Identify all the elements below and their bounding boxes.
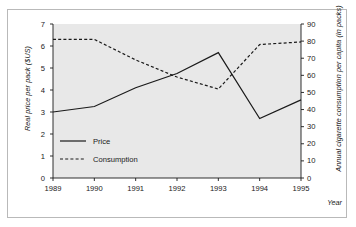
right-axis-tick-label: 80 — [307, 37, 329, 46]
right-axis-tick-label: 30 — [307, 122, 329, 131]
legend-label-consumption: Consumption — [93, 155, 138, 164]
left-axis-tick-label: 2 — [25, 130, 45, 139]
plot-area-background — [53, 24, 301, 178]
left-axis-tick-label: 7 — [25, 20, 45, 29]
left-axis-tick-label: 5 — [25, 64, 45, 73]
x-axis-tick-label: 1989 — [33, 184, 73, 193]
x-axis-tick-label: 1994 — [240, 184, 280, 193]
legend-label-price: Price — [93, 137, 110, 146]
x-axis-tick-label: 1993 — [198, 184, 238, 193]
left-axis-tick-label: 6 — [25, 42, 45, 51]
right-axis-tick-label: 50 — [307, 88, 329, 97]
right-axis-tick-label: 60 — [307, 71, 329, 80]
right-axis-tick-label: 0 — [307, 174, 329, 183]
right-axis-tick-label: 20 — [307, 139, 329, 148]
right-axis-tick-label: 90 — [307, 20, 329, 29]
x-axis-tick-label: 1995 — [281, 184, 321, 193]
x-axis-title: Year — [327, 198, 342, 207]
figure: Real price per pack ($US) Annual cigaret… — [0, 0, 356, 227]
x-axis-tick-label: 1992 — [157, 184, 197, 193]
left-axis-tick-label: 4 — [25, 86, 45, 95]
x-axis-tick-label: 1990 — [74, 184, 114, 193]
right-axis-ticks — [301, 24, 304, 178]
left-axis-tick-label: 3 — [25, 108, 45, 117]
right-axis-tick-label: 10 — [307, 156, 329, 165]
left-axis-tick-label: 0 — [25, 174, 45, 183]
x-axis-tick-label: 1991 — [116, 184, 156, 193]
right-axis-tick-label: 70 — [307, 54, 329, 63]
right-axis-title: Annual cigarette consumption per capita … — [334, 0, 343, 184]
left-axis-tick-label: 1 — [25, 152, 45, 161]
right-axis-tick-label: 40 — [307, 105, 329, 114]
